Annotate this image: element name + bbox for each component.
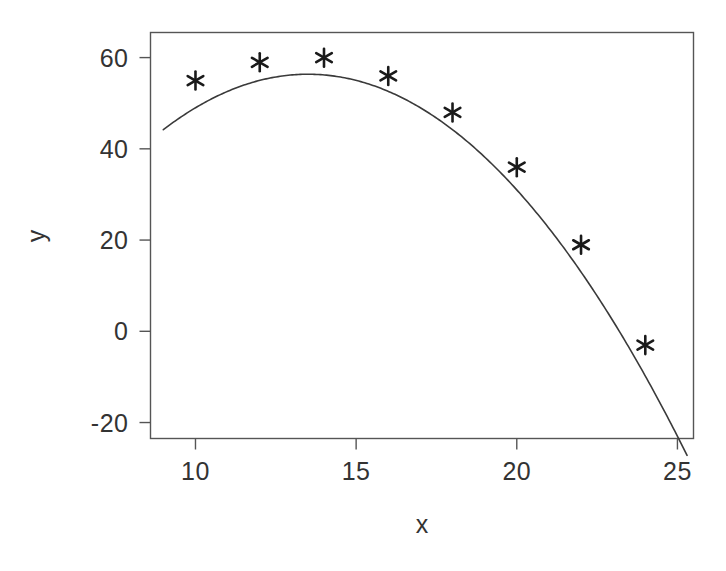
data-point-marker bbox=[252, 53, 268, 71]
x-axis-tick-label: 15 bbox=[342, 457, 371, 486]
data-point-marker bbox=[573, 236, 589, 254]
chart-figure: 6040200-20 10152025 x y bbox=[0, 0, 726, 571]
x-axis-ticks bbox=[195, 439, 677, 450]
x-axis-tick-label: 10 bbox=[181, 457, 210, 486]
y-axis-title: y bbox=[22, 230, 51, 243]
y-axis-tick-label: 0 bbox=[114, 317, 128, 346]
data-point-marker bbox=[445, 103, 461, 121]
y-axis-tick-label: 40 bbox=[100, 134, 129, 163]
data-point-marker bbox=[188, 72, 204, 90]
data-point-marker bbox=[638, 336, 654, 354]
x-axis-tick-label: 20 bbox=[502, 457, 531, 486]
x-axis-title: x bbox=[416, 510, 429, 539]
data-point-marker bbox=[316, 49, 332, 67]
y-axis-tick-label: 60 bbox=[100, 43, 129, 72]
data-point-marker bbox=[509, 158, 525, 176]
data-point-markers bbox=[188, 49, 653, 354]
y-axis-tick-label: -20 bbox=[91, 408, 129, 437]
data-point-marker bbox=[380, 67, 396, 85]
fitted-curve bbox=[163, 74, 687, 455]
y-axis-ticks bbox=[140, 58, 151, 423]
x-axis-tick-label: 25 bbox=[663, 457, 692, 486]
plot-frame-box bbox=[151, 33, 694, 439]
y-axis-tick-label: 20 bbox=[100, 226, 129, 255]
